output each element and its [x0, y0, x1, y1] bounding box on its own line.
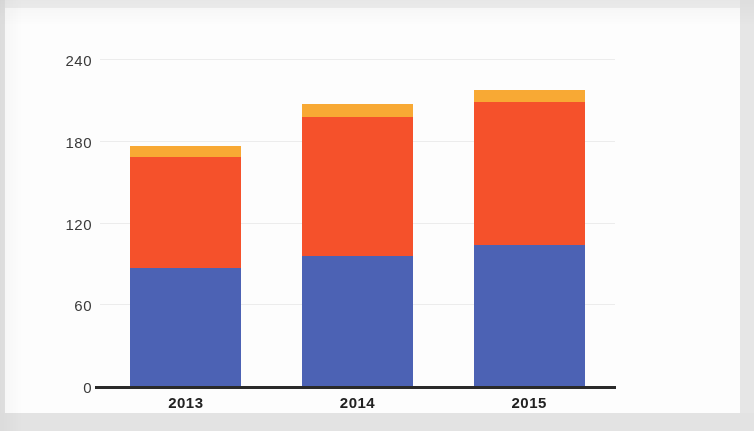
bar-2014[interactable] — [302, 104, 413, 387]
bar-segment-2015-series-2[interactable] — [474, 102, 585, 245]
x-axis-tick-2015: 2015 — [459, 394, 599, 411]
y-axis-tick-60: 60 — [32, 297, 92, 314]
bar-segment-2014-series-1[interactable] — [302, 256, 413, 387]
bar-segment-2013-series-2[interactable] — [130, 157, 241, 269]
y-axis-tick-0: 0 — [32, 379, 92, 396]
x-axis-tick-2013: 2013 — [116, 394, 256, 411]
y-axis-tick-180: 180 — [32, 133, 92, 150]
x-axis-tick-2014: 2014 — [288, 394, 428, 411]
gridline-240 — [100, 59, 615, 60]
plot-area — [100, 60, 615, 387]
stacked-bar-chart: 240 180 120 60 0 2013 2014 2015 — [0, 0, 754, 431]
y-axis-tick-240: 240 — [32, 52, 92, 69]
bar-segment-2013-series-3[interactable] — [130, 146, 241, 157]
bar-segment-2014-series-2[interactable] — [302, 117, 413, 256]
x-axis-line — [95, 386, 616, 389]
bar-segment-2013-series-1[interactable] — [130, 268, 241, 387]
bar-2013[interactable] — [130, 146, 241, 387]
y-axis-tick-120: 120 — [32, 215, 92, 232]
bar-segment-2015-series-3[interactable] — [474, 90, 585, 102]
bar-segment-2014-series-3[interactable] — [302, 104, 413, 118]
bar-2015[interactable] — [474, 90, 585, 387]
bar-segment-2015-series-1[interactable] — [474, 245, 585, 387]
